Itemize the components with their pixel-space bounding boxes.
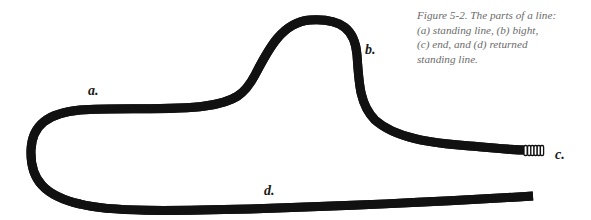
label-d-returned-standing-line: d. [264, 184, 275, 198]
caption-line: (a) standing line, (b) bight, [417, 23, 589, 38]
caption-line: (c) end, and (d) returned [417, 37, 589, 52]
figure-caption: Figure 5-2. The parts of a line: (a) sta… [417, 8, 589, 66]
label-c-end: c. [555, 148, 565, 162]
label-a-standing-line: a. [88, 84, 99, 98]
rope-parts-figure: a. b. c. d. Figure 5-2. The parts of a l… [0, 0, 591, 220]
caption-line: Figure 5-2. The parts of a line: [417, 8, 589, 23]
caption-line: standing line. [417, 52, 589, 67]
label-b-bight: b. [365, 43, 376, 57]
whipping-end-icon [524, 146, 544, 156]
